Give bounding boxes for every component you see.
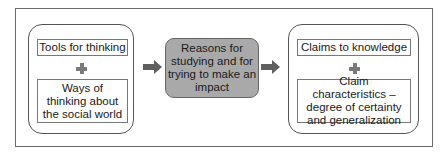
reasons-label: Reasons for studying and for trying to m… [166,42,258,94]
arrow-right-icon [261,60,280,74]
reasons-box: Reasons for studying and for trying to m… [165,38,259,98]
tools-for-thinking-box: Tools for thinking [37,39,128,56]
plus-icon [349,63,360,74]
arrow-right-icon [143,60,162,74]
claim-characteristics-box: Claim characteristics – degree of certai… [297,79,411,123]
claims-to-knowledge-box: Claims to knowledge [297,39,411,56]
tools-for-thinking-label: Tools for thinking [39,41,125,54]
ways-of-thinking-box: Ways of thinking about the social world [37,79,128,123]
ways-of-thinking-label: Ways of thinking about the social world [42,82,123,121]
left-group: Tools for thinking Ways of thinking abou… [28,24,134,134]
claim-characteristics-label: Claim characteristics – degree of certai… [301,75,407,127]
plus-icon [76,63,87,74]
right-group: Claims to knowledge Claim characteristic… [288,24,419,134]
claims-to-knowledge-label: Claims to knowledge [301,41,407,54]
